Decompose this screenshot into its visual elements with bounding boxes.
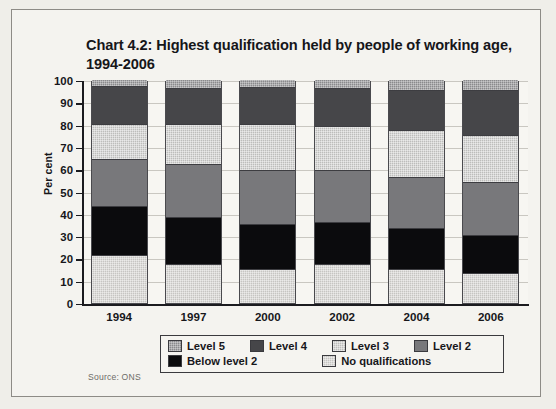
legend-label: Level 5: [187, 340, 225, 352]
y-axis-line: [82, 81, 84, 305]
x-axis-tick-label: 2000: [239, 310, 296, 328]
stacked-bar[interactable]: [462, 81, 519, 304]
y-axis-tick-label: 80: [60, 120, 73, 132]
bar-segment[interactable]: [389, 270, 444, 303]
x-axis-tick-label: 2004: [388, 310, 445, 328]
stacked-bar[interactable]: [314, 81, 371, 304]
legend-item-below-level-2[interactable]: Below level 2: [168, 355, 322, 367]
bar-segment[interactable]: [240, 125, 295, 172]
legend-swatch-icon: [332, 340, 346, 352]
legend-item-level-4[interactable]: Level 4: [250, 340, 332, 352]
y-axis-tick-label: 30: [60, 231, 73, 243]
bar-segment[interactable]: [166, 265, 221, 303]
chart-title: Chart 4.2: Highest qualification held by…: [86, 36, 538, 73]
bar-group-2002[interactable]: [314, 81, 371, 304]
legend-swatch-icon: [322, 355, 336, 367]
bar-segment[interactable]: [389, 178, 444, 229]
bar-segment[interactable]: [240, 80, 295, 88]
bar-segment[interactable]: [92, 125, 147, 161]
bar-segment[interactable]: [463, 91, 518, 136]
legend-row: Level 5Level 4Level 3Level 2: [168, 340, 496, 352]
x-axis-line: [82, 304, 529, 306]
bar-segment[interactable]: [315, 171, 370, 222]
bar-group-2000[interactable]: [239, 81, 296, 304]
bar-segment[interactable]: [463, 80, 518, 91]
x-axis-labels: 199419972000200220042006: [82, 310, 528, 328]
bar-segment[interactable]: [463, 274, 518, 303]
legend-item-no-qualifications[interactable]: No qualifications: [322, 355, 496, 367]
chart-frame: Chart 4.2: Highest qualification held by…: [11, 9, 541, 397]
bar-segment[interactable]: [315, 89, 370, 127]
bar-group-2006[interactable]: [462, 81, 519, 304]
bar-segment[interactable]: [315, 80, 370, 89]
y-axis-tick-label: 100: [54, 75, 73, 87]
x-axis-tick-label: 1994: [91, 310, 148, 328]
bar-segment[interactable]: [92, 160, 147, 207]
legend-swatch-icon: [168, 355, 182, 367]
bar-series-container: [82, 81, 528, 304]
bar-segment[interactable]: [240, 270, 295, 303]
legend-label: Level 2: [433, 340, 471, 352]
y-axis-tick-label: 50: [60, 187, 73, 199]
bar-segment[interactable]: [166, 218, 221, 265]
bar-segment[interactable]: [240, 225, 295, 270]
bar-segment[interactable]: [463, 183, 518, 237]
bar-segment[interactable]: [166, 80, 221, 89]
legend-swatch-icon: [168, 340, 182, 352]
y-axis-tick-label: 60: [60, 164, 73, 176]
stacked-bar[interactable]: [239, 81, 296, 304]
bar-group-1994[interactable]: [91, 81, 148, 304]
bar-segment[interactable]: [389, 131, 444, 178]
stacked-bar[interactable]: [165, 81, 222, 304]
chart-legend: Level 5Level 4Level 3Level 2Below level …: [160, 335, 504, 373]
y-axis-tick-label: 70: [60, 142, 73, 154]
bar-segment[interactable]: [315, 265, 370, 303]
y-axis-tick-label: 90: [60, 97, 73, 109]
source-note: Source: ONS: [88, 372, 141, 382]
bar-segment[interactable]: [92, 87, 147, 125]
y-axis-tick-label: 40: [60, 209, 73, 221]
bar-segment[interactable]: [463, 236, 518, 274]
bar-segment[interactable]: [166, 125, 221, 165]
legend-item-level-3[interactable]: Level 3: [332, 340, 414, 352]
bar-segment[interactable]: [166, 89, 221, 125]
y-axis-tick-label: 20: [60, 253, 73, 265]
y-axis-tick-label: 0: [67, 298, 73, 310]
bar-segment[interactable]: [315, 127, 370, 172]
stacked-bar[interactable]: [388, 81, 445, 304]
bar-segment[interactable]: [166, 165, 221, 219]
bar-segment[interactable]: [463, 136, 518, 183]
bar-segment[interactable]: [92, 80, 147, 87]
legend-label: Level 3: [351, 340, 389, 352]
bar-segment[interactable]: [389, 91, 444, 131]
bar-segment[interactable]: [92, 207, 147, 256]
legend-row: Below level 2No qualifications: [168, 355, 496, 367]
bar-segment[interactable]: [92, 256, 147, 303]
bar-segment[interactable]: [389, 229, 444, 269]
legend-swatch-icon: [414, 340, 428, 352]
legend-label: No qualifications: [341, 355, 431, 367]
y-axis-title: Per cent: [42, 152, 54, 195]
bar-segment[interactable]: [240, 171, 295, 225]
bar-segment[interactable]: [240, 88, 295, 125]
legend-swatch-icon: [250, 340, 264, 352]
legend-label: Below level 2: [187, 355, 257, 367]
x-axis-tick-label: 1997: [165, 310, 222, 328]
plot-area: 0102030405060708090100: [82, 81, 528, 304]
legend-label: Level 4: [269, 340, 307, 352]
stacked-bar[interactable]: [91, 81, 148, 304]
bar-segment[interactable]: [315, 223, 370, 265]
bar-segment[interactable]: [389, 80, 444, 91]
bar-group-2004[interactable]: [388, 81, 445, 304]
legend-item-level-5[interactable]: Level 5: [168, 340, 250, 352]
y-axis-tick-label: 10: [60, 276, 73, 288]
x-axis-tick-label: 2002: [314, 310, 371, 328]
chart-page: Chart 4.2: Highest qualification held by…: [0, 0, 556, 409]
bar-group-1997[interactable]: [165, 81, 222, 304]
legend-item-level-2[interactable]: Level 2: [414, 340, 496, 352]
x-axis-tick-label: 2006: [462, 310, 519, 328]
